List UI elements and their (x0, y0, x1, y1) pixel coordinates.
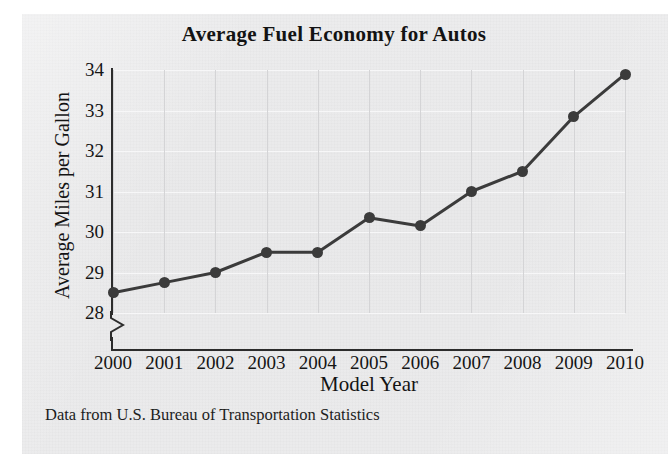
horizontal-gridline (113, 313, 625, 314)
y-axis-ticks: 28293031323334 (56, 70, 104, 313)
y-axis-tick-label: 32 (64, 141, 104, 160)
data-series-line (113, 70, 625, 313)
source-note: Data from U.S. Bureau of Transportation … (45, 405, 380, 425)
data-point-marker (364, 212, 375, 223)
y-axis-tick-label: 31 (64, 182, 104, 201)
chart-page: Average Fuel Economy for Autos Average M… (0, 0, 668, 454)
data-point-marker (620, 69, 631, 80)
x-axis-line (112, 349, 633, 351)
y-axis-break-icon (104, 310, 134, 342)
data-point-marker (159, 277, 170, 288)
data-point-marker (312, 247, 323, 258)
data-point-marker (108, 287, 119, 298)
data-point-marker (466, 186, 477, 197)
chart-title: Average Fuel Economy for Autos (0, 22, 668, 47)
series-polyline (113, 74, 625, 293)
data-point-marker (210, 267, 221, 278)
y-axis-tick-label: 30 (64, 222, 104, 241)
y-axis-tick-label: 34 (64, 60, 104, 79)
x-axis-ticks: 2000200120022003200420052006200720082009… (113, 353, 625, 379)
y-axis-tick-label: 28 (64, 303, 104, 322)
x-axis-tick-label: 2010 (595, 353, 655, 372)
data-point-marker (517, 166, 528, 177)
vertical-gridline (625, 70, 626, 313)
y-axis-tick-label: 33 (64, 101, 104, 120)
data-point-marker (261, 247, 272, 258)
y-axis-tick-label: 29 (64, 263, 104, 282)
